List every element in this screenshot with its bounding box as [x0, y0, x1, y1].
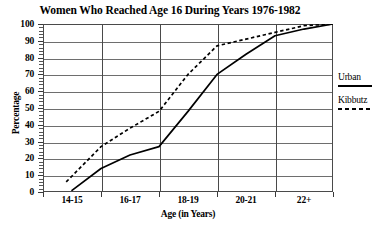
y-axis-tick-labels: 0102030405060708090100 — [0, 24, 39, 192]
legend-swatch-dashed — [338, 106, 377, 112]
data-series-layer — [43, 24, 333, 192]
y-axis-tick-label: 30 — [25, 137, 34, 147]
legend-label: Urban — [338, 72, 377, 83]
chart-title: Women Who Reached Age 16 During Years 19… — [0, 4, 340, 16]
series-line-kibbutz — [66, 24, 333, 182]
x-axis-title: Age (in Years) — [43, 209, 333, 219]
series-svg — [43, 24, 333, 192]
legend-entry-urban[interactable]: Urban — [338, 72, 377, 89]
chart-legend: UrbanKibbutz — [338, 72, 377, 118]
y-axis-tick-label: 80 — [25, 53, 34, 63]
y-axis-tick-label: 50 — [25, 103, 34, 113]
y-axis-tick-label: 40 — [25, 120, 34, 130]
x-axis-tick-label: 18-19 — [177, 195, 198, 205]
x-axis-tick-label: 14-15 — [61, 195, 82, 205]
y-axis-tick-label: 10 — [25, 170, 34, 180]
y-axis-tick-label: 60 — [25, 86, 34, 96]
x-axis-tick-label: 20-21 — [235, 195, 256, 205]
chart-figure: Women Who Reached Age 16 During Years 19… — [0, 0, 377, 226]
x-axis-tick-labels: 14-1516-1718-1920-2122+ — [43, 195, 333, 209]
legend-label: Kibbutz — [338, 95, 377, 106]
legend-entry-kibbutz[interactable]: Kibbutz — [338, 95, 377, 112]
legend-swatch-solid — [338, 83, 377, 89]
x-axis-tick-label: 16-17 — [119, 195, 140, 205]
y-axis-tick-label: 70 — [25, 69, 34, 79]
y-axis-tick-label: 0 — [29, 187, 34, 197]
series-line-urban — [72, 24, 333, 190]
y-axis-tick-label: 90 — [25, 36, 34, 46]
x-axis-tick-label: 22+ — [297, 195, 311, 205]
y-axis-tick-label: 20 — [25, 153, 34, 163]
y-axis-tick-label: 100 — [20, 19, 34, 29]
x-axis-tick-mark — [333, 192, 334, 197]
